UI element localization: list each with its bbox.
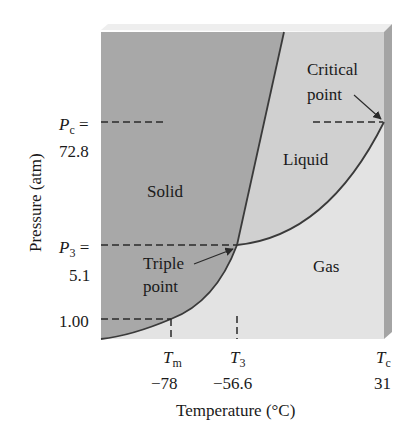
phase-diagram: Solid Liquid Gas Critical point Triple p… bbox=[0, 0, 419, 445]
liquid-label: Liquid bbox=[283, 150, 329, 169]
tc-tick-label: Tc bbox=[376, 348, 391, 370]
solid-label: Solid bbox=[147, 182, 183, 201]
triple-point-label-line2: point bbox=[143, 277, 178, 296]
gas-label: Gas bbox=[313, 257, 339, 276]
critical-point-label-line1: Critical bbox=[307, 60, 358, 79]
t3-tick-value: −56.6 bbox=[213, 374, 252, 393]
tm-tick-label: Tm bbox=[163, 348, 182, 370]
tm-tick-value: −78 bbox=[151, 374, 178, 393]
critical-point-label-line2: point bbox=[307, 85, 342, 104]
p3-tick-label: P3 = bbox=[58, 238, 89, 260]
p3-tick-value: 5.1 bbox=[69, 266, 90, 285]
pc-tick-label: Pc = bbox=[58, 115, 89, 137]
triple-point-label-line1: Triple bbox=[143, 254, 184, 273]
y-axis-title: Pressure (atm) bbox=[26, 153, 45, 252]
x-axis-title: Temperature (°C) bbox=[176, 401, 295, 420]
tc-tick-value: 31 bbox=[374, 374, 391, 393]
p1-tick-value: 1.00 bbox=[59, 312, 89, 331]
t3-tick-label: T3 bbox=[230, 348, 245, 370]
pc-tick-value: 72.8 bbox=[59, 142, 89, 161]
